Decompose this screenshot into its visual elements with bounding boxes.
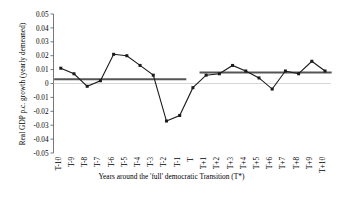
x-axis-tick-label: T-10 bbox=[55, 157, 63, 171]
data-point-marker bbox=[244, 69, 247, 72]
y-axis-tick-label: -0.01 bbox=[34, 94, 49, 102]
x-axis-tick-label: T+5 bbox=[253, 157, 261, 169]
x-axis-tick-label: T+8 bbox=[293, 157, 301, 169]
x-axis-tick-label: T-9 bbox=[68, 157, 76, 167]
data-point-marker bbox=[86, 85, 89, 88]
x-axis-tick-label: T+10 bbox=[319, 157, 327, 173]
x-axis-tick-group: T-10T-9T-8T-7T-6T-5T-4T-3T-2T-1TT+1T+2T+… bbox=[55, 156, 327, 172]
y-axis-tick-label: -0.03 bbox=[34, 122, 49, 130]
y-axis-tick-label: 0.04 bbox=[36, 25, 49, 33]
y-axis-tick-label: 0.02 bbox=[36, 52, 49, 60]
data-point-marker bbox=[257, 76, 260, 79]
data-point-marker bbox=[284, 69, 287, 72]
data-point-marker bbox=[205, 74, 208, 77]
x-axis-tick-label: T bbox=[187, 156, 195, 161]
y-axis-tick-label: -0.04 bbox=[34, 136, 49, 144]
y-axis-tick-label: 0.01 bbox=[36, 66, 49, 74]
data-point-marker bbox=[310, 60, 313, 63]
data-point-marker bbox=[99, 79, 102, 82]
x-axis-tick-label: T+2 bbox=[213, 157, 221, 169]
x-axis-tick-label: T+1 bbox=[200, 157, 208, 169]
x-axis-tick-label: T-3 bbox=[147, 157, 155, 167]
x-axis-tick-label: T-8 bbox=[81, 157, 89, 167]
x-axis-tick-label: T-1 bbox=[174, 157, 182, 167]
data-point-marker bbox=[218, 72, 221, 75]
data-point-marker bbox=[72, 72, 75, 75]
data-point-marker bbox=[152, 74, 155, 77]
data-point-marker bbox=[139, 64, 142, 67]
x-axis-title: Years around the 'full' democratic Trans… bbox=[0, 172, 343, 181]
x-axis-tick-label: T-4 bbox=[134, 157, 142, 167]
data-point-marker bbox=[165, 120, 168, 123]
mean-line-group bbox=[54, 72, 332, 79]
x-axis-tick-label: T-5 bbox=[121, 157, 129, 167]
chart-figure: Real GDP p.c. growth (yearly demeaned) 0… bbox=[0, 0, 343, 197]
x-axis-tick-label: T-7 bbox=[94, 157, 102, 167]
chart-plot-area: 0.050.040.030.020.010-0.01-0.02-0.03-0.0… bbox=[0, 0, 343, 197]
data-point-marker bbox=[324, 69, 327, 72]
data-point-marker bbox=[271, 88, 274, 91]
y-axis-tick-label: 0.03 bbox=[36, 38, 49, 46]
data-point-marker bbox=[112, 53, 115, 56]
y-axis-tick-label: -0.02 bbox=[34, 108, 49, 116]
data-point-marker bbox=[297, 72, 300, 75]
y-axis-tick-label: 0 bbox=[45, 80, 49, 88]
data-point-marker bbox=[231, 64, 234, 67]
x-axis-tick-label: T+6 bbox=[266, 157, 274, 169]
y-axis-tick-group: 0.050.040.030.020.010-0.01-0.02-0.03-0.0… bbox=[34, 11, 54, 158]
data-point-marker bbox=[178, 114, 181, 117]
x-axis-tick-label: T+4 bbox=[240, 157, 248, 169]
y-axis-tick-label: -0.05 bbox=[34, 150, 49, 158]
data-point-marker bbox=[59, 67, 62, 70]
x-axis-tick-label: T+3 bbox=[227, 157, 235, 169]
x-axis-tick-label: T-2 bbox=[160, 157, 168, 167]
data-point-marker bbox=[125, 54, 128, 57]
x-axis-tick-label: T+7 bbox=[279, 157, 287, 169]
y-axis-tick-label: 0.05 bbox=[36, 11, 49, 19]
data-point-marker bbox=[191, 86, 194, 89]
x-axis-tick-label: T-6 bbox=[108, 157, 116, 167]
x-axis-tick-label: T+9 bbox=[306, 157, 314, 169]
series-marker-group bbox=[59, 53, 326, 123]
